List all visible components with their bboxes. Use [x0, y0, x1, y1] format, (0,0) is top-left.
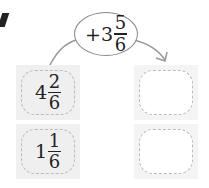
operation-oval: + 3 5 6 [74, 12, 138, 56]
input-1-numerator: 2 [49, 73, 60, 91]
operation-numerator: 5 [115, 14, 126, 32]
input-1-fraction: 2 6 [48, 73, 61, 112]
answer-box-1[interactable] [134, 65, 198, 120]
input-2-whole: 1 [35, 140, 47, 162]
operation-sign: + [85, 23, 101, 45]
input-2-denominator: 6 [49, 153, 60, 171]
operation-whole: 3 [101, 23, 113, 45]
input-2-fraction: 1 6 [48, 132, 61, 171]
answer-box-2[interactable] [134, 124, 198, 179]
input-1-denominator: 6 [49, 94, 60, 112]
input-box-1: 4 2 6 [16, 65, 80, 120]
input-box-2: 1 1 6 [16, 124, 80, 179]
operation-denominator: 6 [115, 36, 126, 54]
operation-fraction: 5 6 [114, 14, 127, 53]
input-1-whole: 4 [35, 81, 47, 103]
input-2-numerator: 1 [49, 132, 60, 150]
